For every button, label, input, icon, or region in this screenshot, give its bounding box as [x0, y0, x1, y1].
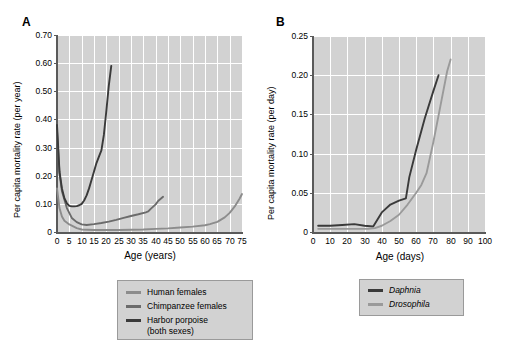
panel-b: B Per capita mortality rate (per day) Ag… [255, 0, 509, 353]
legend-color-swatch [126, 305, 141, 308]
legend-item: Harbor porpoise (both sexes) [126, 315, 208, 336]
series-line [318, 75, 438, 226]
legend-item-label: Human females [147, 287, 207, 298]
legend-color-swatch [368, 289, 383, 292]
legend-color-swatch [126, 291, 141, 294]
legend-item: Drosophila [368, 299, 430, 310]
figure-mortality-rates: A Per capita mortality rate (per year) A… [0, 0, 509, 353]
panel-b-legend: DaphniaDrosophila [359, 279, 464, 316]
legend-item-label: Harbor porpoise (both sexes) [147, 315, 208, 336]
legend-item-label: Daphnia [389, 285, 421, 296]
series-line [318, 60, 450, 229]
legend-item-label: Chimpanzee females [147, 301, 227, 312]
legend-item: Chimpanzee females [126, 301, 227, 312]
legend-item: Daphnia [368, 285, 421, 296]
legend-color-swatch [368, 303, 383, 306]
legend-item-label: Drosophila [389, 299, 430, 310]
series-line [57, 66, 111, 206]
panel-a: A Per capita mortality rate (per year) A… [0, 0, 255, 353]
panel-b-curves [255, 0, 509, 260]
panel-a-legend: Human femalesChimpanzee femalesHarbor po… [117, 280, 253, 340]
series-line [57, 131, 163, 225]
panel-a-curves [0, 0, 255, 260]
legend-color-swatch [126, 319, 141, 322]
legend-item: Human females [126, 287, 207, 298]
